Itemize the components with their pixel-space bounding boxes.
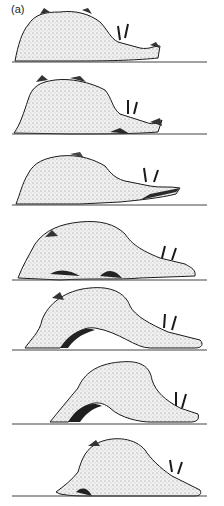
slug-drawing-7 (0, 428, 224, 506)
slug-drawing-4 (0, 212, 224, 282)
frame-4 (0, 212, 224, 282)
slug-drawing-1 (0, 0, 224, 70)
frame-1 (0, 0, 224, 70)
frame-7 (0, 428, 224, 506)
slug-drawing-3 (0, 142, 224, 212)
frame-3 (0, 142, 224, 212)
slug-drawing-5 (0, 282, 224, 352)
slug-drawing-2 (0, 70, 224, 142)
frame-2 (0, 70, 224, 142)
slug-drawing-6 (0, 352, 224, 428)
frame-5 (0, 282, 224, 352)
frame-6 (0, 352, 224, 428)
